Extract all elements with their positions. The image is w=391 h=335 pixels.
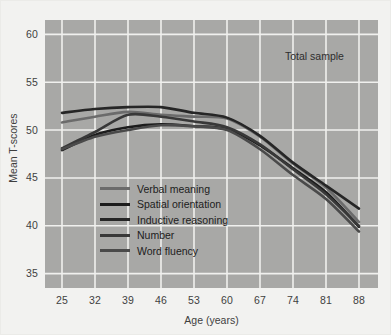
legend-item: Inductive reasoning [100,212,228,228]
y-tick-label: 55 [12,76,38,88]
y-tick-label: 35 [12,267,38,279]
x-tick-label: 25 [47,294,77,306]
y-axis-title: Mean T-scores [7,110,19,186]
x-tick-label: 32 [80,294,110,306]
legend-swatch-icon [100,187,130,190]
x-tick-label: 74 [278,294,308,306]
x-tick-label: 39 [113,294,143,306]
x-tick-label: 46 [146,294,176,306]
x-tick-label: 53 [179,294,209,306]
legend-item: Word fluency [100,243,228,259]
legend-label: Spatial orientation [137,198,221,210]
y-tick-label: 60 [12,28,38,40]
legend-label: Verbal meaning [137,183,210,195]
legend-swatch-icon [100,218,130,221]
legend-label: Word fluency [137,245,198,257]
x-tick-label: 60 [212,294,242,306]
chart-figure: 354045505560 25323946536067748188 Mean T… [0,0,391,335]
y-tick-label: 40 [12,219,38,231]
legend-swatch-icon [100,249,130,252]
legend-label: Number [137,229,174,241]
legend-label: Inductive reasoning [137,214,228,226]
x-axis-title: Age (years) [45,314,378,326]
legend-swatch-icon [100,203,130,206]
legend-item: Spatial orientation [100,197,228,213]
chart-legend: Verbal meaningSpatial orientationInducti… [100,181,228,259]
x-tick-label: 88 [344,294,374,306]
legend-item: Verbal meaning [100,181,228,197]
x-tick-label: 67 [245,294,275,306]
legend-item: Number [100,228,228,244]
legend-swatch-icon [100,234,130,237]
x-tick-label: 81 [311,294,341,306]
total-sample-annotation: Total sample [285,50,344,62]
